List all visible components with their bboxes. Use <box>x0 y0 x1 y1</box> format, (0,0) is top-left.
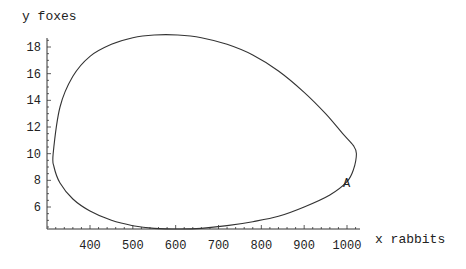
x-tick-label: 400 <box>79 239 101 253</box>
x-tick-label: 800 <box>251 239 273 253</box>
x-tick-label: 500 <box>122 239 144 253</box>
phase-curve <box>53 35 357 229</box>
y-tick-label: 10 <box>27 148 41 162</box>
y-tick-label: 18 <box>27 41 41 55</box>
x-tick-label: 1000 <box>333 239 362 253</box>
y-axis-label: y foxes <box>22 9 77 24</box>
point-marker-a: A <box>343 177 351 191</box>
y-tick-label: 6 <box>34 201 41 215</box>
x-tick-label: 600 <box>165 239 187 253</box>
y-tick-label: 12 <box>27 121 41 135</box>
y-tick-label: 8 <box>34 174 41 188</box>
phase-plot: 6810121416184005006007008009001000y foxe… <box>0 0 466 269</box>
x-tick-label: 700 <box>208 239 230 253</box>
x-axis-label: x rabbits <box>375 232 445 247</box>
x-tick-label: 900 <box>293 239 315 253</box>
chart-canvas: 6810121416184005006007008009001000y foxe… <box>0 0 466 269</box>
y-tick-label: 14 <box>27 94 41 108</box>
y-tick-label: 16 <box>27 68 41 82</box>
